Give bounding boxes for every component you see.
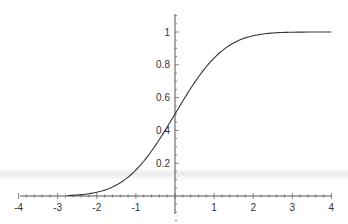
y-tick-label: 0.6 xyxy=(156,92,170,103)
x-tick-label: -2 xyxy=(92,202,101,213)
tick-labels: -4-3-2-112340.20.40.60.81 xyxy=(14,27,334,214)
x-tick-label: 4 xyxy=(329,202,335,213)
cdf-curve xyxy=(67,32,331,196)
x-tick-label: -4 xyxy=(14,202,23,213)
x-tick-label: -1 xyxy=(131,202,140,213)
x-tick-label: 1 xyxy=(211,202,217,213)
y-tick-label: 0.8 xyxy=(156,59,170,70)
sigmoid-chart: -4-3-2-112340.20.40.60.81 xyxy=(0,0,348,224)
y-tick-label: 0.2 xyxy=(156,158,170,169)
y-tick-label: 1 xyxy=(164,27,170,38)
x-tick-label: 3 xyxy=(290,202,296,213)
x-tick-label: 2 xyxy=(250,202,256,213)
x-tick-label: -3 xyxy=(53,202,62,213)
